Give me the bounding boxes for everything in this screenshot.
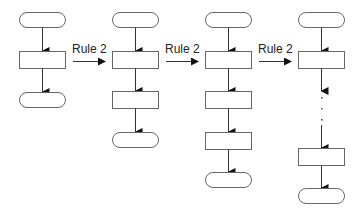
terminal-start bbox=[206, 13, 252, 28]
terminal-start bbox=[20, 13, 66, 28]
flowchart-diagram bbox=[0, 0, 363, 219]
transition-label-3: Rule 2 bbox=[258, 43, 293, 55]
column-2 bbox=[113, 13, 159, 148]
process-box bbox=[299, 52, 345, 69]
process-box bbox=[299, 149, 345, 166]
process-box bbox=[206, 133, 252, 150]
process-box bbox=[206, 92, 252, 109]
process-box bbox=[113, 52, 159, 69]
transition-label-2: Rule 2 bbox=[165, 43, 200, 55]
terminal-end bbox=[20, 93, 66, 108]
transition-label-1: Rule 2 bbox=[72, 43, 107, 55]
terminal-start bbox=[113, 13, 159, 28]
process-box bbox=[113, 92, 159, 109]
process-box bbox=[206, 52, 252, 69]
column-4 bbox=[299, 13, 345, 204]
terminal-end bbox=[299, 189, 345, 204]
terminal-end bbox=[206, 173, 252, 188]
terminal-end bbox=[113, 133, 159, 148]
column-1 bbox=[20, 13, 66, 108]
ellipsis-dots bbox=[321, 97, 323, 121]
column-3 bbox=[206, 13, 252, 188]
process-box bbox=[20, 52, 66, 69]
terminal-start bbox=[299, 13, 345, 28]
